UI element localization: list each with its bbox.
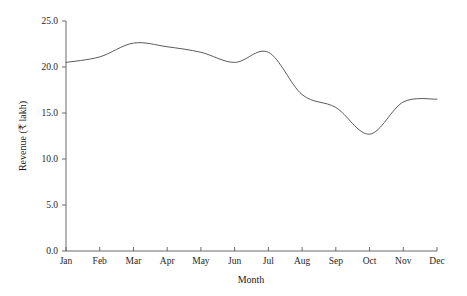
revenue-line-chart-figure: 0.05.010.015.020.025.0 Revenue (₹ lakh) … <box>0 0 467 296</box>
chart-canvas: 0.05.010.015.020.025.0 Revenue (₹ lakh) … <box>0 0 467 296</box>
y-tick-label: 0.0 <box>46 246 58 256</box>
y-tick-label: 10.0 <box>41 154 58 164</box>
x-tick-label: Sep <box>329 256 344 266</box>
x-tick-label: Apr <box>160 256 176 266</box>
x-tick-label: Feb <box>93 256 108 266</box>
x-tick-label: Aug <box>294 256 311 266</box>
y-tick-label: 15.0 <box>41 108 58 118</box>
x-tick-label: Dec <box>429 256 444 266</box>
x-tick-label: Mar <box>126 256 143 266</box>
y-tick-label: 20.0 <box>41 62 58 72</box>
chart-background <box>0 0 467 296</box>
x-tick-label: May <box>192 256 210 266</box>
x-tick-label: Jan <box>60 256 73 266</box>
y-axis-title: Revenue (₹ lakh) <box>17 101 29 171</box>
x-tick-label: Oct <box>363 256 377 266</box>
x-axis-title: Month <box>238 274 265 285</box>
x-tick-label: Jun <box>228 256 241 266</box>
x-tick-label: Nov <box>395 256 412 266</box>
y-tick-label: 5.0 <box>46 200 58 210</box>
y-tick-label: 25.0 <box>41 16 58 26</box>
x-tick-label: Jul <box>263 256 274 266</box>
